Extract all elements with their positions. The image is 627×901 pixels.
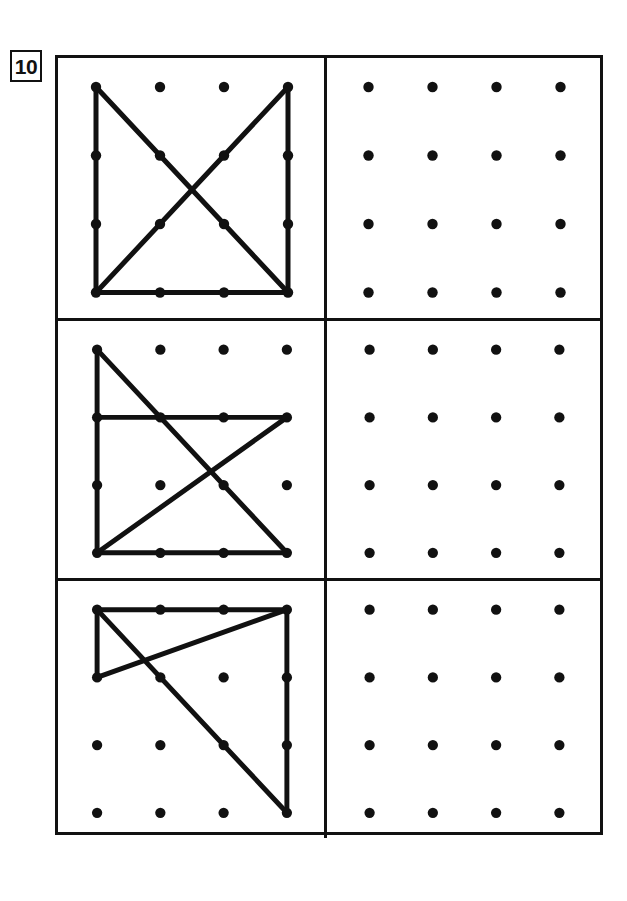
geoboard-model-3[interactable]	[58, 581, 324, 838]
geoboard-dot[interactable]	[427, 287, 437, 297]
geoboard-dot[interactable]	[219, 150, 229, 160]
geoboard-dot[interactable]	[364, 740, 374, 750]
geoboard-dot[interactable]	[554, 605, 564, 615]
geoboard-dot[interactable]	[491, 808, 501, 818]
geoboard-dot[interactable]	[282, 345, 292, 355]
geoboard-dot[interactable]	[428, 548, 438, 558]
geoboard-dot[interactable]	[91, 150, 101, 160]
geoboard-dot[interactable]	[364, 480, 374, 490]
geoboard-dot[interactable]	[428, 605, 438, 615]
geoboard-dot[interactable]	[155, 219, 165, 229]
geoboard-dot[interactable]	[491, 605, 501, 615]
geoboard-answer-1[interactable]	[327, 58, 600, 318]
geoboard-dot[interactable]	[363, 219, 373, 229]
geoboard-dot[interactable]	[555, 287, 565, 297]
geoboard-dot[interactable]	[363, 82, 373, 92]
geoboard-dot[interactable]	[427, 219, 437, 229]
geoboard-dot[interactable]	[92, 808, 102, 818]
geoboard-dot[interactable]	[155, 672, 165, 682]
geoboard-dot[interactable]	[364, 345, 374, 355]
geoboard-dot[interactable]	[554, 808, 564, 818]
geoboard-dot[interactable]	[155, 150, 165, 160]
geoboard-dot[interactable]	[491, 219, 501, 229]
geoboard-dot[interactable]	[219, 219, 229, 229]
geoboard-dot[interactable]	[92, 412, 102, 422]
geoboard-dot[interactable]	[282, 740, 292, 750]
geoboard-dot[interactable]	[91, 219, 101, 229]
geoboard-dot[interactable]	[91, 287, 101, 297]
geoboard-dot[interactable]	[155, 287, 165, 297]
geoboard-dot[interactable]	[282, 548, 292, 558]
geoboard-dot[interactable]	[283, 82, 293, 92]
geoboard-dot[interactable]	[92, 740, 102, 750]
geoboard-dot[interactable]	[555, 82, 565, 92]
geoboard-dot[interactable]	[92, 605, 102, 615]
geoboard-dot[interactable]	[219, 287, 229, 297]
geoboard-dot[interactable]	[218, 548, 228, 558]
geoboard-dot[interactable]	[554, 345, 564, 355]
geoboard-dot[interactable]	[282, 605, 292, 615]
geoboard-dot[interactable]	[364, 672, 374, 682]
geoboard-dot[interactable]	[428, 808, 438, 818]
geoboard-dot[interactable]	[218, 345, 228, 355]
geoboard-dot[interactable]	[219, 82, 229, 92]
geoboard-dot[interactable]	[283, 219, 293, 229]
geoboard-dot[interactable]	[428, 480, 438, 490]
geoboard-dot[interactable]	[491, 480, 501, 490]
geoboard-answer-2[interactable]	[327, 321, 600, 578]
geoboard-dot[interactable]	[218, 808, 228, 818]
geoboard-dot[interactable]	[363, 287, 373, 297]
geoboard-dot[interactable]	[92, 672, 102, 682]
geoboard-dot[interactable]	[491, 150, 501, 160]
geoboard-dot[interactable]	[282, 808, 292, 818]
geoboard-dot[interactable]	[92, 548, 102, 558]
geoboard-dot[interactable]	[554, 412, 564, 422]
geoboard-dot[interactable]	[155, 412, 165, 422]
geoboard-dot[interactable]	[218, 740, 228, 750]
geoboard-dot[interactable]	[282, 672, 292, 682]
geoboard-dot[interactable]	[428, 672, 438, 682]
geoboard-dot[interactable]	[427, 82, 437, 92]
geoboard-dot[interactable]	[155, 345, 165, 355]
geoboard-dot[interactable]	[155, 808, 165, 818]
geoboard-dot[interactable]	[491, 412, 501, 422]
geoboard-dot[interactable]	[218, 605, 228, 615]
geoboard-dot[interactable]	[555, 219, 565, 229]
geoboard-model-1[interactable]	[58, 58, 324, 318]
geoboard-dot[interactable]	[91, 82, 101, 92]
geoboard-dot[interactable]	[363, 150, 373, 160]
geoboard-dot[interactable]	[491, 548, 501, 558]
geoboard-dot[interactable]	[282, 480, 292, 490]
geoboard-dot[interactable]	[491, 740, 501, 750]
geoboard-dot[interactable]	[92, 480, 102, 490]
geoboard-dot[interactable]	[554, 672, 564, 682]
geoboard-dot[interactable]	[155, 548, 165, 558]
geoboard-dot[interactable]	[155, 605, 165, 615]
geoboard-dot[interactable]	[218, 412, 228, 422]
geoboard-dot[interactable]	[364, 605, 374, 615]
geoboard-dot[interactable]	[428, 345, 438, 355]
geoboard-dot[interactable]	[218, 480, 228, 490]
geoboard-dot[interactable]	[491, 672, 501, 682]
geoboard-dot[interactable]	[491, 287, 501, 297]
geoboard-dot[interactable]	[364, 548, 374, 558]
geoboard-dot[interactable]	[364, 412, 374, 422]
geoboard-model-2[interactable]	[58, 321, 324, 578]
geoboard-dot[interactable]	[155, 82, 165, 92]
geoboard-dot[interactable]	[427, 150, 437, 160]
geoboard-dot[interactable]	[491, 345, 501, 355]
geoboard-dot[interactable]	[554, 740, 564, 750]
geoboard-dot[interactable]	[283, 287, 293, 297]
geoboard-dot[interactable]	[554, 480, 564, 490]
geoboard-dot[interactable]	[155, 480, 165, 490]
geoboard-dot[interactable]	[218, 672, 228, 682]
geoboard-dot[interactable]	[428, 740, 438, 750]
geoboard-dot[interactable]	[428, 412, 438, 422]
geoboard-answer-3[interactable]	[327, 581, 600, 838]
geoboard-dot[interactable]	[554, 548, 564, 558]
geoboard-dot[interactable]	[555, 150, 565, 160]
geoboard-dot[interactable]	[491, 82, 501, 92]
geoboard-dot[interactable]	[364, 808, 374, 818]
geoboard-dot[interactable]	[282, 412, 292, 422]
geoboard-dot[interactable]	[283, 150, 293, 160]
